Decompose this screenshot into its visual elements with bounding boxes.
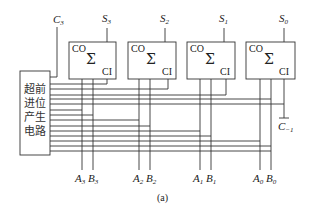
svg-text:B0: B0 <box>266 172 277 186</box>
adder-0: CO Σ CI S0 <box>246 12 295 79</box>
svg-text:A0: A0 <box>252 172 264 186</box>
carry-lookahead-adder-diagram: 超前 进位 产生 电路 C3 CO Σ CI S3 CO Σ CI S2 CO … <box>0 0 315 219</box>
svg-text:A1: A1 <box>192 172 203 186</box>
svg-text:Σ: Σ <box>86 51 96 67</box>
svg-text:S3: S3 <box>102 12 112 26</box>
svg-text:Σ: Σ <box>205 51 215 67</box>
input-lines <box>82 79 271 170</box>
svg-text:B2: B2 <box>146 172 157 186</box>
carry-in-c-1: C−1 <box>278 118 294 134</box>
svg-text:CO: CO <box>249 43 263 54</box>
svg-text:A3: A3 <box>74 172 86 186</box>
input-labels: A3 B3 A2 B2 A1 B1 A0 B0 <box>74 172 277 186</box>
block-label-line-1: 超前 <box>24 82 46 96</box>
svg-text:CO: CO <box>72 43 86 54</box>
adder-1: CO Σ CI S1 <box>187 12 235 79</box>
svg-text:S1: S1 <box>219 12 228 26</box>
carry-out-c3: C3 <box>50 13 64 77</box>
svg-text:C3: C3 <box>53 13 64 27</box>
carry-lookahead-block: 超前 进位 产生 电路 <box>20 71 50 155</box>
pg-wires <box>50 99 271 151</box>
svg-text:CI: CI <box>162 66 172 77</box>
svg-text:B1: B1 <box>206 172 216 186</box>
figure-caption: (a) <box>157 192 168 204</box>
svg-text:S0: S0 <box>279 12 289 26</box>
block-label-line-3: 产生 <box>24 110 46 124</box>
svg-text:B3: B3 <box>88 172 99 186</box>
svg-text:C−1: C−1 <box>278 120 294 134</box>
carry-in-wires <box>50 79 284 118</box>
svg-text:CI: CI <box>220 66 230 77</box>
adder-2: CO Σ CI S2 <box>128 12 176 79</box>
svg-text:Σ: Σ <box>146 51 156 67</box>
svg-text:CO: CO <box>190 43 204 54</box>
svg-text:A2: A2 <box>132 172 144 186</box>
svg-text:CI: CI <box>279 66 289 77</box>
block-label-line-4: 电路 <box>24 125 46 138</box>
svg-text:CI: CI <box>102 66 112 77</box>
svg-text:Σ: Σ <box>264 51 274 67</box>
adder-3: CO Σ CI S3 <box>69 12 116 79</box>
block-label-line-2: 进位 <box>24 96 46 110</box>
svg-text:S2: S2 <box>160 12 170 26</box>
svg-text:CO: CO <box>131 43 145 54</box>
